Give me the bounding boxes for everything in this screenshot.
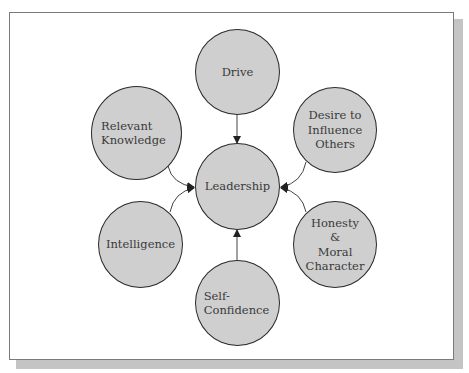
node-relevant-knowledge: Relevant Knowledge	[91, 86, 182, 180]
node-label: Intelligence	[106, 237, 175, 252]
node-label: Drive	[222, 65, 254, 80]
node-label: Honesty & Moral Character	[306, 216, 365, 274]
node-label: Desire to Influence Others	[308, 108, 363, 152]
edge-relevant-knowledge	[168, 166, 194, 187]
node-intelligence: Intelligence	[98, 201, 183, 288]
node-label: Self- Confidence	[204, 289, 270, 318]
edge-desire-to-influence	[281, 162, 306, 187]
edge-intelligence	[170, 188, 194, 212]
node-drive: Drive	[195, 29, 280, 115]
node-leadership: Leadership	[195, 143, 280, 230]
node-honesty-moral-character: Honesty & Moral Character	[293, 201, 377, 288]
node-self-confidence: Self- Confidence	[195, 260, 280, 346]
node-label: Leadership	[205, 179, 270, 194]
node-label: Relevant Knowledge	[101, 119, 166, 148]
edge-honesty	[281, 188, 306, 212]
node-desire-to-influence-others: Desire to Influence Others	[293, 87, 377, 173]
